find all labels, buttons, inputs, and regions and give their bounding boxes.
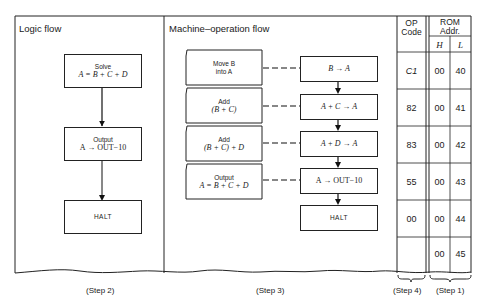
rom-l-cell: 44 — [450, 200, 471, 237]
rom-h-cell: 00 — [429, 163, 450, 200]
op-card-add-c: Add (B + C) — [187, 89, 261, 122]
rom-h-cell: 00 — [429, 200, 450, 237]
op-card-label2: A = B + C + D — [200, 182, 249, 190]
rom-l-cell: 43 — [450, 163, 471, 200]
rom-h-cell: 00 — [429, 89, 450, 126]
rom-l-cell: 42 — [450, 126, 471, 163]
step-1-label: (Step 1) — [436, 286, 464, 295]
op-card-label2: (B + C) + D — [204, 144, 244, 152]
op-card-output: Output A = B + C + D — [187, 165, 261, 198]
op-header-2: Code — [397, 27, 426, 37]
op-code-cell — [397, 237, 426, 271]
op-code-cell: 55 — [397, 163, 426, 200]
op-card-label: Move B — [213, 60, 235, 68]
op-code-cell: 82 — [397, 89, 426, 126]
rom-h-cell: 00 — [429, 52, 450, 89]
op-card-label2: (B + C) — [212, 106, 237, 114]
logic-box-solve: Solve A = B + C + D — [64, 54, 142, 88]
op-code-cell: 83 — [397, 126, 426, 163]
machine-flow-title: Machine–operation flow — [169, 23, 269, 34]
h-header: H — [429, 37, 450, 52]
logic-box-expr: A → OUT−10 — [80, 144, 126, 152]
action-box-halt: HALT — [300, 205, 378, 231]
rom-header-2: Addr. — [429, 26, 471, 36]
action-box-output: A → OUT−10 — [300, 168, 378, 194]
rom-l-cell: 41 — [450, 89, 471, 126]
action-box-add-d: A + D → A — [300, 131, 378, 157]
logic-box-expr: A = B + C + D — [79, 71, 128, 79]
logic-flow-title: Logic flow — [19, 23, 61, 34]
step-4-label: (Step 4) — [393, 286, 421, 295]
action-box-add-c: A + C → A — [300, 94, 378, 120]
rom-h-cell: 00 — [429, 126, 450, 163]
rom-l-cell: 45 — [450, 237, 471, 271]
op-card-add-d: Add (B + C) + D — [187, 127, 261, 160]
rom-h-cell: 00 — [429, 237, 450, 271]
op-code-cell: C1 — [397, 52, 426, 89]
op-card-move: Move B into A — [187, 51, 261, 84]
op-code-cell: 00 — [397, 200, 426, 237]
rom-l-cell: 40 — [450, 52, 471, 89]
action-box-move: B → A — [300, 56, 378, 82]
logic-box-output: Output A → OUT−10 — [64, 127, 142, 161]
l-header: L — [450, 37, 471, 52]
step-3-label: (Step 3) — [256, 286, 284, 295]
op-card-label2: into A — [216, 68, 232, 76]
step-2-label: (Step 2) — [86, 286, 114, 295]
logic-box-halt: HALT — [64, 200, 142, 234]
